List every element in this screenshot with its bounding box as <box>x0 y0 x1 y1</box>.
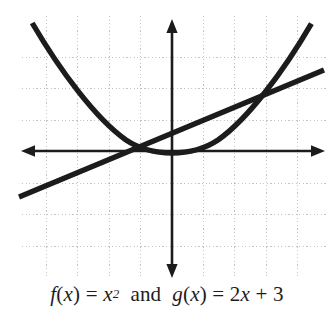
caption-conjunction: and <box>119 282 172 307</box>
caption-g-arg: x <box>190 282 200 307</box>
caption-g-constant: + 3 <box>250 282 284 307</box>
coordinate-plane-plot <box>0 0 334 310</box>
caption-f-equals: = <box>80 282 103 307</box>
caption-f-body-exponent: 2 <box>113 286 120 302</box>
caption-g-variable: x <box>241 282 251 307</box>
caption-f-body-base: x <box>103 282 113 307</box>
caption-g-equals: = <box>207 282 230 307</box>
figure-caption: f(x) = x2 and g(x) = 2x + 3 <box>0 278 334 310</box>
function-graph-figure: f(x) = x2 and g(x) = 2x + 3 <box>0 0 334 310</box>
caption-g-paren-close: ) <box>200 282 207 307</box>
caption-g-name: g <box>172 282 183 307</box>
caption-f-paren-open: ( <box>56 282 63 307</box>
caption-g-coefficient: 2 <box>230 282 241 307</box>
caption-f-arg: x <box>64 282 74 307</box>
caption-f-paren-close: ) <box>73 282 80 307</box>
